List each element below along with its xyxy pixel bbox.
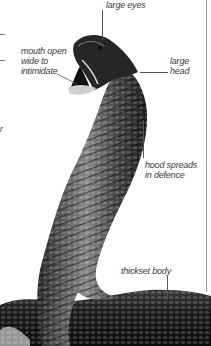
leader-thickset-body — [167, 276, 168, 300]
label-thickset-body: thickset body — [121, 266, 171, 276]
cobra-diagram: r large eyes mouth open wide to intimida… — [0, 0, 211, 346]
leader-hood-spreads — [143, 120, 144, 158]
label-hood-spreads: hood spreads in defence — [145, 160, 197, 180]
label-large-head: large head — [170, 56, 189, 76]
leader-large-head — [140, 72, 168, 73]
